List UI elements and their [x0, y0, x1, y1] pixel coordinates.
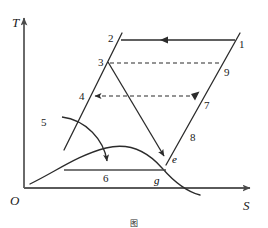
- point-label-2: 2: [108, 32, 114, 44]
- point-label-4: 4: [79, 90, 85, 102]
- x-axis-label: S: [243, 198, 250, 213]
- figure-root: T S O 1 2 3 4 5 6 7 8 9 e g 图: [0, 0, 268, 228]
- arrowhead-1-to-2: [160, 37, 168, 44]
- point-label-5: 5: [41, 116, 47, 128]
- axes-group: [24, 18, 250, 188]
- figure-caption: 图: [0, 219, 268, 228]
- arrowhead-at-7: [191, 92, 200, 101]
- point-label-1: 1: [239, 38, 245, 50]
- line-expansion-e-8-7-9-1: [166, 33, 240, 165]
- point-label-8: 8: [190, 131, 196, 143]
- point-label-7: 7: [204, 99, 210, 111]
- point-label-9: 9: [224, 66, 230, 78]
- point-label-g: g: [154, 174, 160, 186]
- point-label-e: e: [172, 153, 177, 165]
- ts-diagram-canvas: T S O 1 2 3 4 5 6 7 8 9 e g: [0, 0, 268, 228]
- line-3-to-e: [108, 62, 164, 156]
- y-axis-label: T: [12, 15, 20, 30]
- point-label-6: 6: [103, 172, 109, 184]
- point-label-3: 3: [98, 56, 104, 68]
- line-1-to-2-group: [121, 37, 235, 44]
- origin-label: O: [10, 193, 20, 208]
